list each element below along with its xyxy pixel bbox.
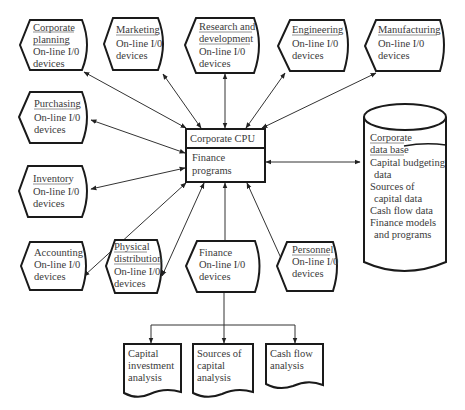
- terminal-subtitle: devices: [292, 268, 324, 279]
- terminal-subtitle: On-line I/0: [114, 266, 160, 277]
- database-item: and programs: [374, 229, 431, 240]
- terminal-subtitle: On-line I/0: [292, 38, 338, 49]
- terminal-title: Engineering: [292, 24, 344, 35]
- cpu-program-label: programs: [192, 165, 232, 176]
- terminal-title: Research and: [199, 21, 256, 32]
- terminal-purchasing: Purchasing On-line I/0 devices: [19, 92, 87, 143]
- terminal-subtitle: On-line I/0: [199, 46, 245, 57]
- terminal-finance: Finance On-line I/0 devices: [186, 241, 260, 292]
- database-item: data: [374, 169, 392, 180]
- connectors: [84, 72, 376, 343]
- terminal-subtitle: On-line I/0: [34, 112, 80, 123]
- database-title: data base: [370, 144, 409, 155]
- terminal-subtitle: On-line I/0: [33, 186, 79, 197]
- terminal-personnel: Personnel On-line I/0 devices: [277, 242, 338, 291]
- terminal-inventory: Inventory On-line I/0 devices: [19, 166, 87, 217]
- terminal-title: Manufacturing: [378, 24, 441, 35]
- terminal-title: distribution: [114, 253, 163, 264]
- terminal-title: Personnel: [292, 244, 333, 255]
- report-label: Sources of: [197, 348, 242, 359]
- terminal-subtitle: On-line I/0: [292, 256, 338, 267]
- terminal-marketing: Marketing On-line I/0 devices: [104, 18, 163, 70]
- terminal-title: Purchasing: [34, 98, 81, 109]
- report-label: Capital: [128, 348, 158, 359]
- finance-information-system-diagram: Corporate planning On-line I/0 devices M…: [0, 0, 465, 410]
- terminal-title: Physical: [114, 241, 150, 252]
- report-label: Cash flow: [270, 348, 313, 359]
- report-label: capital: [197, 360, 225, 371]
- database-item: Sources of: [370, 181, 415, 192]
- database-item: Capital budgeting: [370, 157, 446, 168]
- terminal-subtitle: devices: [33, 198, 65, 209]
- terminal-title: Finance: [199, 247, 233, 258]
- report-capital-investment: Capital investment analysis: [124, 344, 181, 397]
- terminal-subtitle: On-line I/0: [199, 259, 245, 270]
- terminal-title: Corporate: [33, 22, 75, 33]
- terminal-title: planning: [33, 34, 70, 45]
- terminal-subtitle: On-line I/0: [33, 46, 79, 57]
- report-sources-of-capital: Sources of capital analysis: [193, 344, 253, 397]
- terminal-title: development: [199, 33, 253, 44]
- terminal-subtitle: On-line I/0: [378, 38, 424, 49]
- terminal-subtitle: devices: [199, 58, 231, 69]
- terminal-engineering: Engineering On-line I/0 devices: [278, 20, 348, 71]
- terminal-accounting: Accounting On-line I/0 devices: [21, 242, 86, 290]
- terminal-physical-distribution: Physical distribution On-line I/0 device…: [106, 240, 163, 293]
- terminal-subtitle: devices: [34, 124, 66, 135]
- terminal-research-development: Research and development On-line I/0 dev…: [185, 18, 259, 73]
- terminal-subtitle: devices: [116, 50, 148, 61]
- terminal-title: Marketing: [116, 24, 160, 35]
- terminal-subtitle: devices: [34, 271, 66, 282]
- database-item: Finance models: [370, 217, 436, 228]
- database-title: Corporate: [370, 132, 412, 143]
- corporate-database-cylinder: Corporate data base Capital budgeting da…: [364, 104, 446, 271]
- corporate-cpu-box: Corporate CPU Finance programs: [186, 129, 265, 182]
- database-item: capital data: [374, 193, 422, 204]
- database-item: Cash flow data: [370, 205, 433, 216]
- terminal-title: Inventory: [33, 173, 75, 184]
- terminal-corporate-planning: Corporate planning On-line I/0 devices: [20, 20, 87, 70]
- terminal-subtitle: On-line I/0: [34, 259, 80, 270]
- report-label: analysis: [197, 372, 231, 383]
- terminal-subtitle: devices: [199, 271, 231, 282]
- terminal-subtitle: On-line I/0: [116, 38, 162, 49]
- cpu-program-label: Finance: [192, 152, 226, 163]
- terminal-subtitle: devices: [378, 50, 410, 61]
- report-label: investment: [128, 360, 174, 371]
- terminal-subtitle: devices: [292, 50, 324, 61]
- terminal-subtitle: devices: [114, 278, 146, 289]
- report-cash-flow: Cash flow analysis: [266, 344, 323, 388]
- report-label: analysis: [128, 372, 162, 383]
- terminal-subtitle: devices: [33, 58, 65, 69]
- terminal-manufacturing: Manufacturing On-line I/0 devices: [365, 20, 444, 71]
- terminal-title: Accounting: [34, 247, 84, 258]
- cpu-title: Corporate CPU: [190, 133, 255, 144]
- report-label: analysis: [270, 360, 304, 371]
